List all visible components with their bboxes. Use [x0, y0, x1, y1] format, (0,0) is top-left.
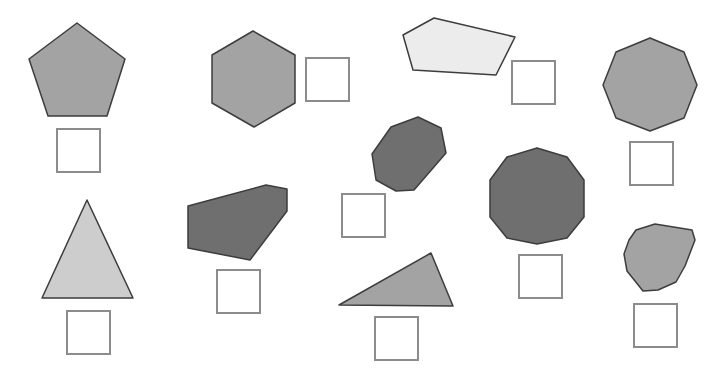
answer-input-irregular-polygon[interactable] [635, 305, 676, 346]
triangle-shape [42, 200, 133, 298]
answer-input-decagon[interactable] [520, 256, 561, 297]
answer-box-octagon[interactable] [629, 141, 674, 186]
answer-input-triangle[interactable] [68, 312, 109, 353]
answer-input-irregular-pentagon[interactable] [513, 62, 554, 103]
answer-box-irregular-polygon[interactable] [633, 303, 678, 348]
answer-box-irregular-pentagon[interactable] [511, 60, 556, 105]
answer-box-triangle[interactable] [66, 310, 111, 355]
answer-input-hexagon[interactable] [307, 59, 348, 100]
answer-input-octagon[interactable] [631, 143, 672, 184]
answer-box-irregular-octagon[interactable] [341, 193, 386, 238]
answer-box-pentagon[interactable] [56, 128, 101, 173]
hexagon-shape [212, 31, 295, 127]
answer-box-irregular-hexagon[interactable] [216, 269, 261, 314]
answer-box-hexagon[interactable] [305, 57, 350, 102]
irregular-pentagon-shape [403, 18, 515, 75]
decagon-shape [490, 148, 584, 244]
irregular-polygon-shape [624, 224, 695, 291]
answer-box-decagon[interactable] [518, 254, 563, 299]
answer-input-irregular-hexagon[interactable] [218, 271, 259, 312]
pentagon-shape [29, 23, 125, 116]
octagon-shape [603, 38, 697, 131]
answer-input-irregular-octagon[interactable] [343, 195, 384, 236]
irregular-hexagon-shape [188, 185, 287, 260]
answer-input-scalene-triangle[interactable] [376, 318, 417, 359]
irregular-octagon-shape [372, 117, 446, 191]
shape-worksheet [0, 0, 722, 378]
scalene-triangle-shape [339, 253, 453, 306]
answer-box-scalene-triangle[interactable] [374, 316, 419, 361]
answer-input-pentagon[interactable] [58, 130, 99, 171]
